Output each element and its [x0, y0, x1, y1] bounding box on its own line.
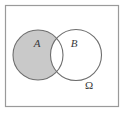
- set-b-label: B: [71, 37, 78, 49]
- set-a-label: A: [33, 37, 41, 49]
- venn-diagram-figure: A B Ω: [0, 0, 127, 115]
- universe-label: Ω: [85, 79, 93, 91]
- venn-diagram-svg: A B Ω: [0, 0, 127, 115]
